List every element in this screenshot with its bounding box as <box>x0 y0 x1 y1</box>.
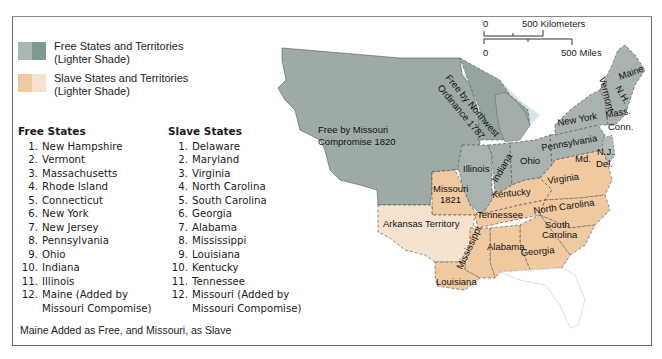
florida <box>500 268 585 328</box>
label-louisiana: Louisiana <box>436 276 477 287</box>
label-ohio: Ohio <box>520 155 540 166</box>
label-south-carolina-2: Carolina <box>542 229 578 240</box>
label-tennessee: Tennessee <box>477 209 523 220</box>
label-missouri-compromise: Free by Missouri <box>318 124 388 135</box>
map: Free by Missouri Compromise 1820 Free by… <box>0 0 662 359</box>
label-arkansas: Arkansas Territory <box>383 218 460 229</box>
label-missouri-compromise-year: Compromise 1820 <box>318 136 396 147</box>
label-conn: Conn. <box>608 121 633 132</box>
label-md: Md. <box>575 153 591 164</box>
label-illinois: Illinois <box>463 163 490 174</box>
label-nj: N.J. <box>597 146 614 157</box>
label-missouri-year: 1821 <box>440 194 461 205</box>
label-missouri: Missouri <box>433 183 468 194</box>
label-del: Del. <box>596 158 613 169</box>
